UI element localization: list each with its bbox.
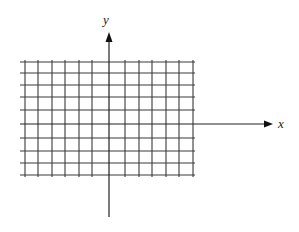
x-axis-label: x bbox=[277, 116, 284, 131]
y-axis-arrow-icon bbox=[106, 32, 113, 42]
x-axis-arrow-icon bbox=[264, 121, 273, 128]
grid-lines bbox=[20, 60, 195, 177]
y-axis-label: y bbox=[101, 12, 109, 27]
coordinate-grid-diagram: x y bbox=[0, 0, 299, 232]
